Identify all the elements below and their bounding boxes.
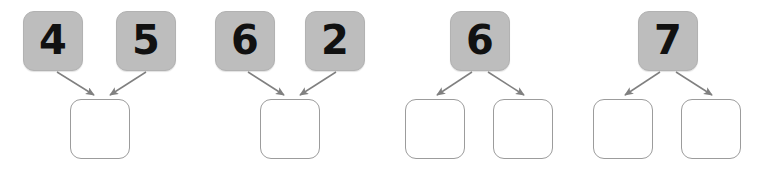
- bond-4-bottom-box-2[interactable]: [681, 99, 741, 159]
- bond-4-top-value-1: 7: [654, 20, 682, 60]
- bond-4-bottom-box-1[interactable]: [593, 99, 653, 159]
- number-bond-4: 7: [0, 0, 767, 172]
- bond-4-top-box-1: 7: [638, 11, 698, 71]
- number-bond-worksheet: 456267: [0, 0, 767, 172]
